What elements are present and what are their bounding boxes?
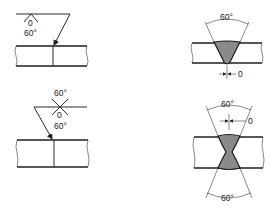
angle-top-label: 60° [221, 99, 234, 109]
break-line-right [87, 140, 89, 167]
angle-bottom-label: 60° [221, 193, 234, 203]
break-line-right [262, 137, 264, 168]
break-line-left [16, 140, 18, 167]
break-line-right [261, 43, 263, 63]
break-line-left [191, 43, 193, 63]
double-v-weld-section: 60° 0 60° [193, 99, 264, 203]
root-gap-label: 0 [248, 116, 253, 126]
angle-bottom-label: 60° [54, 121, 67, 131]
extension-line [240, 22, 249, 42]
single-v-weld-symbol: 0 60° [15, 14, 88, 66]
angle-label: 60° [220, 12, 233, 22]
angle-label: 60° [24, 28, 37, 38]
extension-line [205, 22, 214, 42]
weld-symbol-diagram: 0 60° 60° 0 60° 0 60° [0, 0, 277, 208]
extension-line [206, 106, 218, 136]
angle-top-label: 60° [54, 88, 67, 98]
arrow-line [34, 107, 52, 139]
arrow-line [54, 14, 70, 45]
break-line-left [193, 137, 195, 168]
plate-pair [16, 140, 89, 167]
double-v-weld-symbol: 60° 0 60° [16, 88, 89, 167]
single-v-weld-section: 60° 0 [191, 12, 263, 79]
plate-pair [15, 46, 88, 66]
root-gap-label: 0 [57, 110, 62, 120]
weld-bead [214, 41, 240, 64]
root-gap-label: 0 [238, 69, 243, 79]
break-line-left [15, 46, 17, 66]
break-line-right [86, 46, 88, 66]
weld-bead [218, 135, 240, 170]
root-gap-label: 0 [28, 18, 33, 28]
